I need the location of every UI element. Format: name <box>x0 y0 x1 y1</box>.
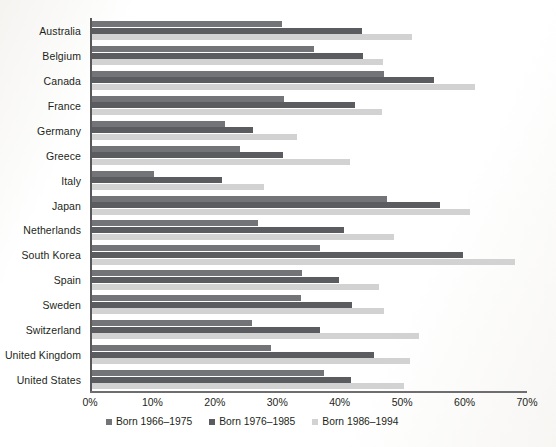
bar <box>92 284 379 290</box>
legend-swatch-icon <box>209 419 215 425</box>
bar <box>92 96 284 102</box>
bar <box>92 308 384 314</box>
bar <box>92 21 282 27</box>
y-axis-label: Greece <box>46 143 81 170</box>
bar-group <box>92 292 527 317</box>
bar <box>92 352 374 358</box>
y-axis-label: Netherlands <box>23 217 81 244</box>
bar-group <box>92 18 527 43</box>
y-axis-category-labels: AustraliaBelgiumCanadaFranceGermanyGreec… <box>0 18 86 392</box>
bar <box>92 77 434 83</box>
x-axis-tick-label: 40% <box>329 396 350 408</box>
x-axis-tick-label: 50% <box>392 396 413 408</box>
y-axis-label: Spain <box>54 267 81 294</box>
bar <box>92 159 350 165</box>
bar-group <box>92 118 527 143</box>
bar-group <box>92 342 527 367</box>
x-axis-tick-labels: 0%10%20%30%40%50%60%70% <box>90 396 527 412</box>
bar <box>92 171 154 177</box>
bar-group <box>92 168 527 193</box>
bar <box>92 245 320 251</box>
bar <box>92 109 382 115</box>
bar <box>92 134 297 140</box>
y-axis-label: Japan <box>52 193 81 220</box>
bar <box>92 227 344 233</box>
x-axis-tick-label: 60% <box>454 396 475 408</box>
y-axis-label: Italy <box>61 168 81 195</box>
bar <box>92 146 240 152</box>
bar-group <box>92 93 527 118</box>
legend-item: Born 1986–1994 <box>312 416 398 427</box>
y-axis-label: Sweden <box>42 292 81 319</box>
bar <box>92 102 355 108</box>
x-axis-tick-label: 0% <box>82 396 97 408</box>
bar <box>92 184 264 190</box>
bar <box>92 177 222 183</box>
bar <box>92 320 252 326</box>
legend-label: Born 1986–1994 <box>322 416 398 427</box>
bar <box>92 84 475 90</box>
bar <box>92 270 302 276</box>
bar <box>92 53 363 59</box>
bar <box>92 370 324 376</box>
x-axis-tick-label: 30% <box>267 396 288 408</box>
bar-group <box>92 68 527 93</box>
bar <box>92 327 320 333</box>
bar <box>92 71 384 77</box>
bar <box>92 252 463 258</box>
bar <box>92 295 301 301</box>
x-axis-tick-label: 20% <box>204 396 225 408</box>
bar-group <box>92 317 527 342</box>
y-axis-label: Switzerland <box>26 317 81 344</box>
legend-label: Born 1966–1975 <box>116 416 192 427</box>
y-axis-label: United States <box>17 367 81 394</box>
x-axis-tick-label: 70% <box>516 396 537 408</box>
legend-swatch-icon <box>106 419 112 425</box>
bar <box>92 34 412 40</box>
chart-legend: Born 1966–1975Born 1976–1985Born 1986–19… <box>106 416 398 427</box>
y-axis-label: Australia <box>39 18 81 45</box>
bar <box>92 152 283 158</box>
plot-area <box>90 18 527 392</box>
y-axis-label: United Kingdom <box>5 342 81 369</box>
bar <box>92 358 410 364</box>
y-axis-label: Germany <box>37 118 81 145</box>
legend-swatch-icon <box>312 419 318 425</box>
bar <box>92 121 225 127</box>
bar <box>92 345 271 351</box>
bar <box>92 196 387 202</box>
bar-group <box>92 143 527 168</box>
bar <box>92 28 362 34</box>
bar-group <box>92 193 527 218</box>
bar <box>92 259 515 265</box>
bar <box>92 234 394 240</box>
bar <box>92 202 440 208</box>
bar <box>92 127 253 133</box>
legend-item: Born 1966–1975 <box>106 416 192 427</box>
y-axis-label: France <box>48 93 81 120</box>
bar-group <box>92 267 527 292</box>
bar-group <box>92 242 527 267</box>
y-axis-label: Canada <box>44 68 81 95</box>
bar <box>92 383 404 389</box>
bar-group <box>92 217 527 242</box>
bar <box>92 209 470 215</box>
bar <box>92 377 351 383</box>
bar <box>92 277 339 283</box>
legend-label: Born 1976–1985 <box>219 416 295 427</box>
y-axis-label: Belgium <box>42 43 81 70</box>
bar-chart: AustraliaBelgiumCanadaFranceGermanyGreec… <box>0 0 556 447</box>
bar <box>92 59 383 65</box>
y-axis-label: South Korea <box>22 242 81 269</box>
bar <box>92 333 419 339</box>
bar <box>92 220 258 226</box>
x-axis-tick-label: 10% <box>142 396 163 408</box>
bar <box>92 46 314 52</box>
bar-group <box>92 367 527 392</box>
bar <box>92 302 352 308</box>
bar-group <box>92 43 527 68</box>
legend-item: Born 1976–1985 <box>209 416 295 427</box>
